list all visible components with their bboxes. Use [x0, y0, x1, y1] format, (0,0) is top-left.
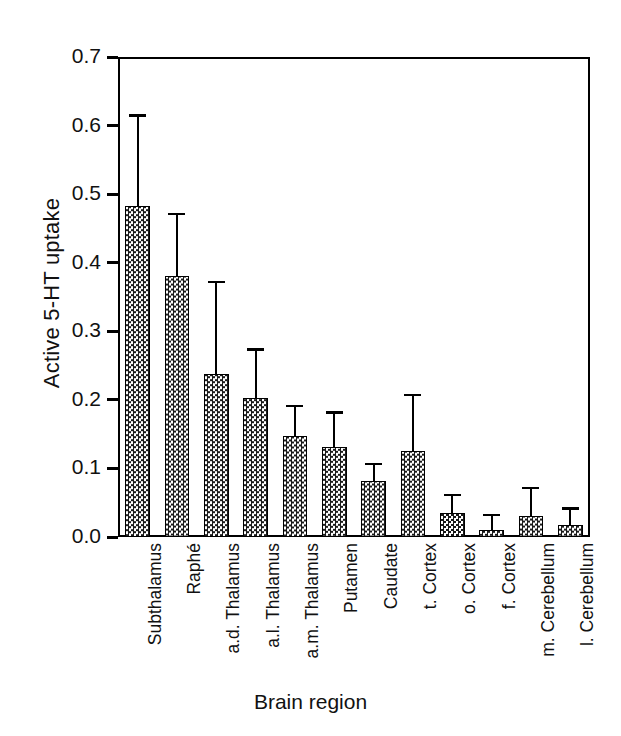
y-tick-label: 0.7 — [72, 44, 101, 68]
x-tick-label-wrap: o. Cortex — [440, 537, 464, 682]
y-tick-mark — [107, 467, 118, 470]
x-tick-label-wrap: Caudate — [361, 537, 385, 682]
x-tick-label: a.d. Thalamus — [223, 543, 244, 654]
x-axis-title: Brain region — [0, 690, 621, 714]
bars-layer — [118, 57, 590, 537]
error-bar-line — [412, 396, 414, 451]
bar[interactable] — [125, 206, 149, 537]
x-tick-label-wrap: l. Cerebellum — [558, 537, 582, 682]
y-tick-mark — [107, 124, 118, 127]
bar-group[interactable] — [479, 57, 503, 537]
bar-group[interactable] — [440, 57, 464, 537]
x-tick-label-wrap: a.d. Thalamus — [204, 537, 228, 682]
y-tick-mark — [107, 193, 118, 196]
bar[interactable] — [401, 451, 425, 537]
y-tick-label: 0.2 — [72, 387, 101, 411]
bar-group[interactable] — [125, 57, 149, 537]
bar[interactable] — [165, 276, 189, 537]
y-tick-mark — [107, 261, 118, 264]
error-bar-cap — [404, 394, 421, 396]
bar-group[interactable] — [361, 57, 385, 537]
error-bar-line — [255, 351, 257, 398]
y-tick-label: 0.6 — [72, 113, 101, 137]
y-tick-label: 0.5 — [72, 181, 101, 205]
x-tick-label-wrap: a.l. Thalamus — [243, 537, 267, 682]
error-bar-line — [530, 489, 532, 516]
y-tick-label: 0.4 — [72, 250, 101, 274]
error-bar-cap — [562, 507, 579, 509]
bar-group[interactable] — [519, 57, 543, 537]
bar[interactable] — [558, 525, 582, 537]
x-tick-label-wrap: Raphé — [165, 537, 189, 682]
error-bar-cap — [247, 348, 264, 350]
error-bar-line — [176, 215, 178, 277]
y-tick-mark — [107, 536, 118, 539]
y-axis-title: Active 5-HT uptake — [39, 123, 65, 463]
x-tick-label: a.l. Thalamus — [263, 543, 284, 648]
bar[interactable] — [440, 513, 464, 537]
bar-group[interactable] — [401, 57, 425, 537]
y-tick-label: 0.3 — [72, 318, 101, 342]
error-bar-cap — [522, 487, 539, 489]
x-tick-label-wrap: Putamen — [322, 537, 346, 682]
bar-group[interactable] — [322, 57, 346, 537]
x-tick-label: a.m. Thalamus — [302, 543, 323, 658]
x-axis-tick-labels: SubthalamusRaphéa.d. Thalamusa.l. Thalam… — [118, 537, 590, 682]
x-tick-label: l. Cerebellum — [577, 543, 598, 646]
x-tick-label-wrap: Subthalamus — [125, 537, 149, 682]
error-bar-line — [451, 496, 453, 513]
x-tick-label-wrap: m. Cerebellum — [519, 537, 543, 682]
x-tick-label: m. Cerebellum — [538, 543, 559, 657]
bar[interactable] — [243, 398, 267, 537]
bar-group[interactable] — [243, 57, 267, 537]
y-tick-mark — [107, 56, 118, 59]
y-tick-label: 0.0 — [72, 524, 101, 548]
x-tick-label: f. Cortex — [499, 543, 520, 609]
error-bar-line — [333, 414, 335, 448]
bar[interactable] — [519, 516, 543, 537]
error-bar-cap — [129, 114, 146, 116]
error-bar-line — [491, 516, 493, 530]
error-bar-cap — [168, 213, 185, 215]
x-tick-label: Subthalamus — [145, 543, 166, 645]
x-tick-label: Raphé — [184, 543, 205, 595]
error-bar-cap — [483, 514, 500, 516]
bar[interactable] — [283, 436, 307, 537]
error-bar-cap — [444, 494, 461, 496]
bar[interactable] — [361, 481, 385, 537]
bar-group[interactable] — [204, 57, 228, 537]
x-tick-label: Caudate — [381, 543, 402, 609]
y-tick-mark — [107, 330, 118, 333]
x-tick-label-wrap: t. Cortex — [401, 537, 425, 682]
y-tick-label: 0.1 — [72, 455, 101, 479]
error-bar-line — [294, 407, 296, 436]
bar-group[interactable] — [283, 57, 307, 537]
error-bar-line — [569, 510, 571, 526]
x-tick-label-wrap: f. Cortex — [479, 537, 503, 682]
y-tick-mark — [107, 398, 118, 401]
x-tick-label: Putamen — [341, 543, 362, 613]
chart-figure: Active 5-HT uptake 0.00.10.20.30.40.50.6… — [0, 0, 621, 736]
error-bar-cap — [208, 281, 225, 283]
x-tick-label-wrap: a.m. Thalamus — [283, 537, 307, 682]
error-bar-cap — [365, 463, 382, 465]
bar[interactable] — [479, 530, 503, 537]
error-bar-line — [137, 117, 139, 206]
error-bar-cap — [286, 405, 303, 407]
bar[interactable] — [322, 447, 346, 537]
error-bar-line — [215, 283, 217, 374]
error-bar-cap — [326, 411, 343, 413]
bar-group[interactable] — [165, 57, 189, 537]
x-tick-label: t. Cortex — [420, 543, 441, 609]
x-tick-label: o. Cortex — [459, 543, 480, 614]
error-bar-line — [373, 465, 375, 481]
bar[interactable] — [204, 374, 228, 537]
bar-group[interactable] — [558, 57, 582, 537]
